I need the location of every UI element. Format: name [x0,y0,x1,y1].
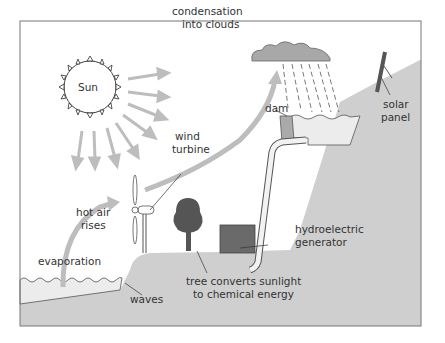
energy-diagram: Sun [0,0,445,343]
hydro-label-1: hydroelectric [295,223,364,235]
waves-label: waves [130,293,163,305]
hot-air-label-2: rises [81,219,106,231]
tree-icon [173,198,202,251]
condensation-label-2: into clouds [182,18,239,30]
condensation-label-1: condensation [172,5,243,17]
solar-label-2: panel [381,111,410,123]
dam-label: dam [265,102,288,114]
tree-label-2: to chemical energy [193,288,294,300]
wind-label-2: turbine [172,143,210,155]
hot-air-label-1: hot air [76,206,111,218]
hydro-label-2: generator [295,236,348,248]
tree-label-1: tree converts sunlight [186,275,301,287]
evaporation-label: evaporation [38,255,101,267]
solar-label-1: solar [383,98,409,110]
sun-label: Sun [78,81,98,93]
hydroelectric-generator [220,225,255,253]
wind-label-1: wind [175,130,200,142]
